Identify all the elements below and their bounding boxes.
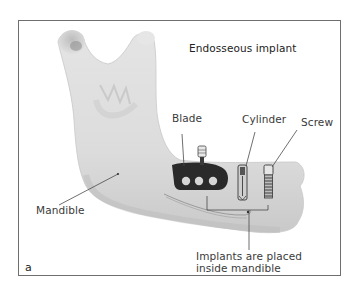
mandible-label: Mandible — [36, 205, 85, 216]
cylinder-label: Cylinder — [242, 114, 286, 125]
cylinder-leader — [246, 132, 255, 166]
mandible-illustration — [0, 0, 361, 291]
blade-label: Blade — [172, 113, 202, 124]
figure-title: Endosseous implant — [189, 43, 296, 54]
blade-implant — [172, 146, 228, 190]
implants-label-line2: inside mandible — [196, 263, 281, 274]
mandible-bone — [58, 32, 304, 233]
condyle — [59, 30, 85, 54]
coronoid-process — [137, 31, 155, 45]
screw-implant — [264, 165, 273, 198]
screw-leader — [272, 130, 297, 167]
cylinder-implant — [238, 165, 247, 200]
panel-letter: a — [25, 262, 32, 273]
implants-label-line1: Implants are placed — [196, 251, 302, 262]
screw-label: Screw — [301, 117, 333, 128]
